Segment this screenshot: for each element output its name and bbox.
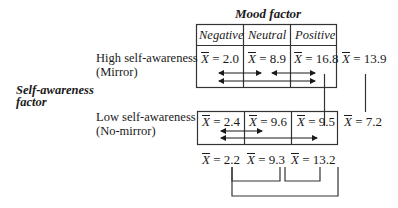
row-label-high-line2: (Mirror) [96, 65, 198, 79]
mean-symbol: X [249, 114, 257, 130]
row-factor-label: Self-awareness factor [16, 84, 94, 108]
cell-low-neutral: X = 9.6 [249, 114, 287, 130]
cell-high-neutral: X = 8.9 [248, 51, 286, 67]
mean-symbol: X [201, 51, 209, 67]
bracket-negative-neutral [232, 167, 280, 181]
column-factor-title: Mood factor [235, 6, 301, 22]
mean-symbol: X [344, 114, 352, 130]
row-mean-low: X = 7.2 [344, 114, 382, 130]
mean-symbol: X [248, 51, 256, 67]
mean-symbol: X [294, 51, 302, 67]
mean-symbol: X [202, 114, 210, 130]
row-label-low-line1: Low self-awareness [96, 110, 196, 124]
mean-symbol: X [342, 51, 350, 67]
cell-high-negative: X = 2.0 [201, 51, 239, 67]
row-factor-label-line2: factor [16, 96, 94, 108]
cell-low-negative: X = 2.4 [202, 114, 240, 130]
row-label-low: Low self-awareness (No-mirror) [96, 110, 196, 138]
column-header-positive: Positive [295, 28, 335, 43]
row-label-high: High self-awareness (Mirror) [96, 51, 198, 79]
mean-symbol: X [297, 114, 305, 130]
column-mean-neutral: X = 9.3 [247, 152, 285, 168]
column-mean-negative: X = 2.2 [202, 152, 240, 168]
mean-symbol: X [247, 152, 255, 168]
bracket-neutral-positive [285, 167, 320, 181]
row-mean-high: X = 13.9 [342, 51, 387, 67]
cell-high-positive: X = 16.8 [294, 51, 339, 67]
row-label-high-line1: High self-awareness [96, 51, 198, 65]
cell-low-positive: X = 9.5 [297, 114, 335, 130]
mean-symbol: X [202, 152, 210, 168]
column-header-negative: Negative [199, 28, 243, 43]
column-mean-positive: X = 13.2 [291, 152, 336, 168]
row-label-low-line2: (No-mirror) [96, 124, 196, 138]
column-header-neutral: Neutral [248, 28, 286, 43]
mean-symbol: X [291, 152, 299, 168]
